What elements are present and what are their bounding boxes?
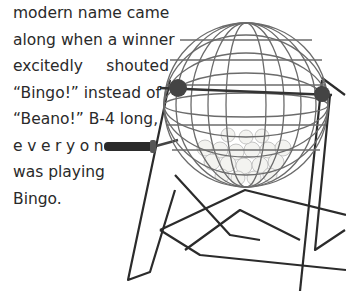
bingo-cage-illustration bbox=[100, 0, 346, 291]
text-line: was playing bbox=[13, 159, 99, 186]
crank-handle bbox=[104, 140, 178, 153]
